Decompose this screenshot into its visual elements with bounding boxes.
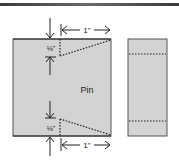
top-width-label: 1" [83,26,90,35]
dovetail-pin-diagram: 1" 1" ⅛" ⅛" Pin [0,0,179,165]
top-depth-label: ⅛" [47,45,56,52]
bottom-depth-label: ⅛" [47,125,56,132]
side-view-board [128,39,167,136]
pin-label: Pin [80,85,93,95]
bottom-width-label: 1" [83,141,90,150]
pin-board [13,39,111,136]
